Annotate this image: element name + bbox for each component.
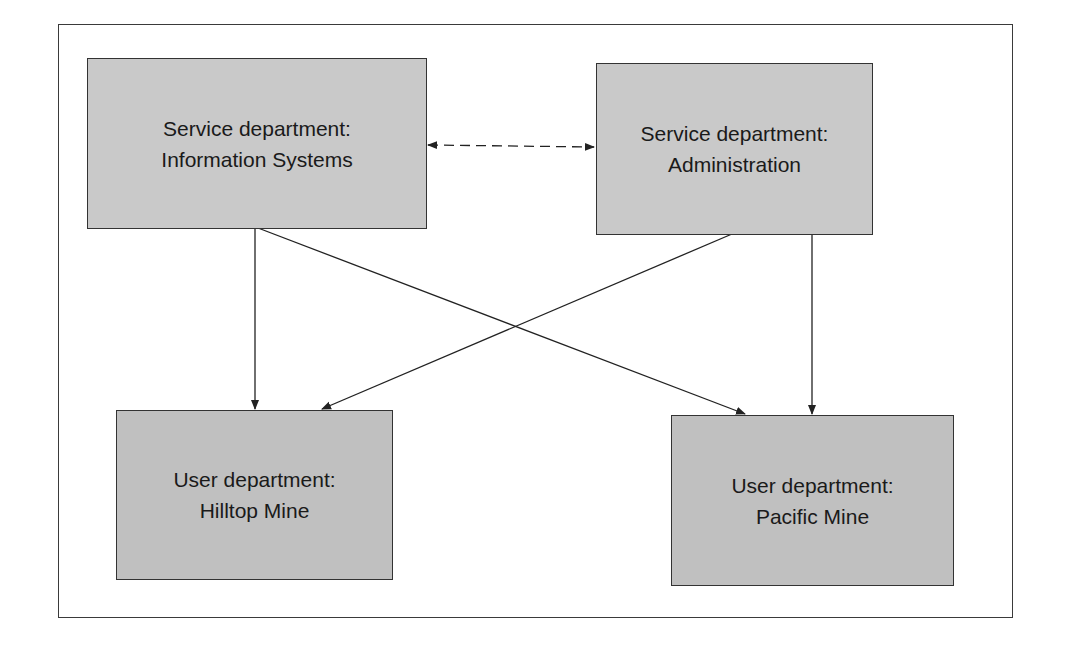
arrow-is-to-pacific — [258, 228, 745, 414]
node-subtitle: Pacific Mine — [756, 501, 869, 532]
node-user-pacific-mine: User department: Pacific Mine — [671, 415, 954, 586]
dashed-arrow-is-admin — [428, 145, 594, 147]
node-service-information-systems: Service department: Information Systems — [87, 58, 427, 229]
node-user-hilltop-mine: User department: Hilltop Mine — [116, 410, 393, 580]
node-subtitle: Information Systems — [161, 144, 352, 175]
node-subtitle: Administration — [668, 149, 801, 180]
node-service-administration: Service department: Administration — [596, 63, 873, 235]
node-title: User department: — [731, 470, 893, 501]
node-title: Service department: — [163, 113, 351, 144]
arrow-admin-to-hilltop — [322, 234, 732, 409]
node-title: Service department: — [641, 118, 829, 149]
node-subtitle: Hilltop Mine — [200, 495, 310, 526]
node-title: User department: — [173, 464, 335, 495]
